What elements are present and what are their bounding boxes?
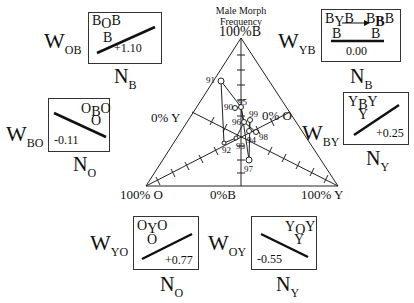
point-label-90: 90 (224, 102, 233, 112)
axis-label-top: 100%B (219, 24, 261, 40)
coef-bo: -0.11 (54, 133, 79, 148)
n-b-label-yb: NB (350, 66, 372, 91)
panel-yb: BYB BBB B B 0.00 (321, 9, 401, 62)
axis-label-bottom-right: 100% Y (301, 187, 344, 203)
point-label-94: 94 (247, 135, 256, 145)
n-o-label-yo: NO (160, 274, 183, 299)
w-yo-label: WYO (90, 232, 128, 258)
coef-oy: -0.55 (257, 252, 282, 267)
coef-by: +0.25 (376, 126, 404, 141)
point-label-95: 95 (238, 97, 247, 107)
panel-oy: YOY Y -0.55 (251, 216, 317, 270)
axis-label-right-mid: 0% O (262, 108, 292, 124)
axis-label-bottom-left: 100% O (120, 187, 163, 203)
w-ob-label: WOB (44, 30, 81, 56)
w-yb-label: WYB (278, 30, 315, 56)
panel-ob: BOB B +1.10 (88, 12, 162, 64)
point-label-98: 98 (259, 132, 268, 142)
coef-yo: +0.77 (165, 253, 193, 268)
panel-bo: OBO O -0.11 (48, 98, 110, 152)
point-label-92: 92 (222, 145, 231, 155)
w-bo-label: WBO (6, 123, 43, 149)
axis-label-left-mid: 0% Y (151, 110, 181, 126)
panel-by: YBY Y +0.25 (343, 92, 409, 145)
point-label-99: 99 (249, 109, 258, 119)
n-b-label-ob: NB (114, 66, 136, 91)
w-oy-label: WOY (208, 232, 246, 258)
panel-yb-mid-left: B (332, 28, 341, 40)
w-by-label: WBY (302, 122, 339, 148)
panel-yo: OYO O +0.77 (133, 216, 199, 270)
coef-yb: 0.00 (346, 44, 367, 59)
n-y-label-by: NY (366, 148, 389, 173)
point-label-93: 93 (236, 141, 245, 151)
n-o-label-bo: NO (73, 154, 96, 179)
panel-yb-mid-right: B (371, 28, 380, 40)
point-label-97: 97 (244, 164, 253, 174)
point-label-96: 96 (232, 117, 241, 127)
axis-label-bottom-center: 0%B (210, 187, 236, 203)
coef-ob: +1.10 (114, 41, 142, 56)
point-label-91: 91 (206, 75, 215, 85)
n-y-label-oy: NY (276, 274, 299, 299)
